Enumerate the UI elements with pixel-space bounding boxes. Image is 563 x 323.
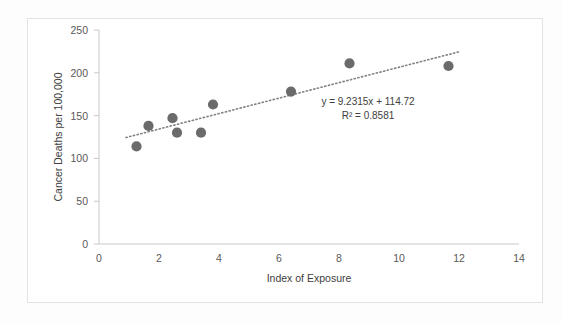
- data-point: [172, 128, 182, 138]
- y-tick-label-0: 0: [82, 238, 88, 250]
- y-tick-label-100: 100: [70, 152, 88, 164]
- x-tick-label-2: 2: [156, 252, 162, 264]
- y-tick-label-250: 250: [70, 24, 88, 36]
- data-point: [167, 113, 177, 123]
- x-tick-label-8: 8: [336, 252, 342, 264]
- data-point: [286, 87, 296, 97]
- x-tick-label-4: 4: [216, 252, 222, 264]
- data-point: [208, 99, 218, 109]
- x-axis-title: Index of Exposure: [267, 272, 352, 284]
- y-axis-title: Cancer Deaths per 100,000: [52, 72, 64, 201]
- x-tick-label-10: 10: [393, 252, 405, 264]
- data-point: [196, 128, 206, 138]
- chart-figure: 250 200 150 100 50 0 0 2 4 6 8 10 12 14 …: [0, 0, 563, 323]
- y-tick-label-150: 150: [70, 110, 88, 122]
- scatter-plot-svg: 250 200 150 100 50 0 0 2 4 6 8 10 12 14 …: [28, 19, 542, 302]
- x-tick-label-0: 0: [96, 252, 102, 264]
- x-tick-label-14: 14: [513, 252, 525, 264]
- x-tick-label-12: 12: [453, 252, 465, 264]
- data-point: [344, 58, 354, 68]
- chart-plot-area: 250 200 150 100 50 0 0 2 4 6 8 10 12 14 …: [27, 18, 543, 303]
- x-tick-label-6: 6: [276, 252, 282, 264]
- data-point: [443, 61, 453, 71]
- y-tick-label-200: 200: [70, 67, 88, 79]
- data-point: [131, 141, 141, 151]
- data-point: [143, 121, 153, 131]
- trendline-equation-label: y = 9.2315x + 114.72: [321, 96, 415, 107]
- trendline-r-squared-label: R² = 0.8581: [342, 110, 395, 121]
- y-tick-label-50: 50: [76, 195, 88, 207]
- y-axis-ticks: [94, 30, 99, 244]
